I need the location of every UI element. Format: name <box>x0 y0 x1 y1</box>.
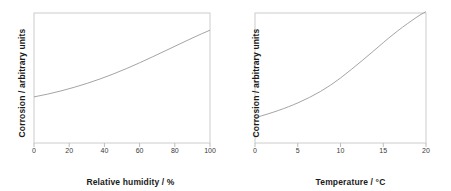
chart-panel-humidity: 0 20 40 60 80 100 Corrosion / arbitrary … <box>0 0 225 191</box>
x-tick-label: 15 <box>371 147 395 154</box>
x-tick-label: 100 <box>198 147 222 154</box>
y-axis-title: Corrosion / arbitrary units <box>17 13 27 153</box>
plot-area-humidity <box>0 0 225 191</box>
x-tick-label: 10 <box>329 147 353 154</box>
y-axis-title: Corrosion / arbitrary units <box>251 13 261 153</box>
x-axis-title: Temperature / °C <box>226 177 451 187</box>
x-tick-label: 60 <box>128 147 152 154</box>
figure-container: 0 20 40 60 80 100 Corrosion / arbitrary … <box>0 0 451 191</box>
x-tick-label: 20 <box>414 147 438 154</box>
x-tick-label: 80 <box>163 147 187 154</box>
x-axis-title: Relative humidity / % <box>0 177 243 187</box>
plot-frame <box>34 13 210 143</box>
x-tick-label: 20 <box>57 147 81 154</box>
x-tick-label: 40 <box>92 147 116 154</box>
chart-panel-temperature: 0 5 10 15 20 Corrosion / arbitrary units… <box>226 0 451 191</box>
x-tick-label: 5 <box>286 147 310 154</box>
